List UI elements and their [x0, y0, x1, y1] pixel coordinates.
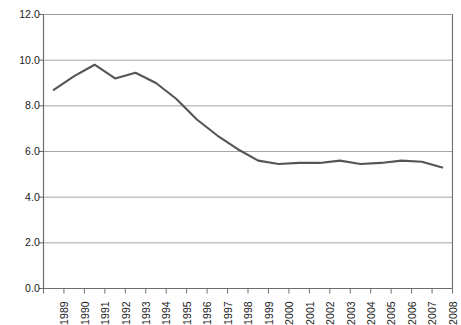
x-axis-tick-label: 2007: [426, 301, 438, 325]
x-axis-tick-label: 1999: [263, 301, 275, 325]
x-axis-labels: 1989199019911992199319941995199619971998…: [0, 0, 461, 325]
x-axis-tick-label: 1991: [99, 301, 111, 325]
x-axis-tick-label: 1994: [160, 301, 172, 325]
x-axis-tick-label: 1990: [79, 301, 91, 325]
line-chart: 0.02.04.06.08.010.012.0 1989199019911992…: [0, 0, 461, 325]
x-axis-tick-label: 2006: [406, 301, 418, 325]
x-axis-tick-label: 1998: [242, 301, 254, 325]
x-axis-tick-label: 2008: [447, 301, 459, 325]
x-axis-tick-label: 1992: [120, 301, 132, 325]
x-axis-tick-label: 2002: [324, 301, 336, 325]
x-axis-tick-label: 2000: [283, 301, 295, 325]
x-axis-tick-label: 1993: [140, 301, 152, 325]
x-axis-tick-label: 2003: [345, 301, 357, 325]
x-axis-tick-label: 1997: [222, 301, 234, 325]
x-axis-tick-label: 1996: [201, 301, 213, 325]
x-axis-tick-label: 1989: [58, 301, 70, 325]
x-axis-tick-label: 1995: [181, 301, 193, 325]
x-axis-tick-label: 2005: [385, 301, 397, 325]
x-axis-tick-label: 2001: [304, 301, 316, 325]
x-axis-tick-label: 2004: [365, 301, 377, 325]
